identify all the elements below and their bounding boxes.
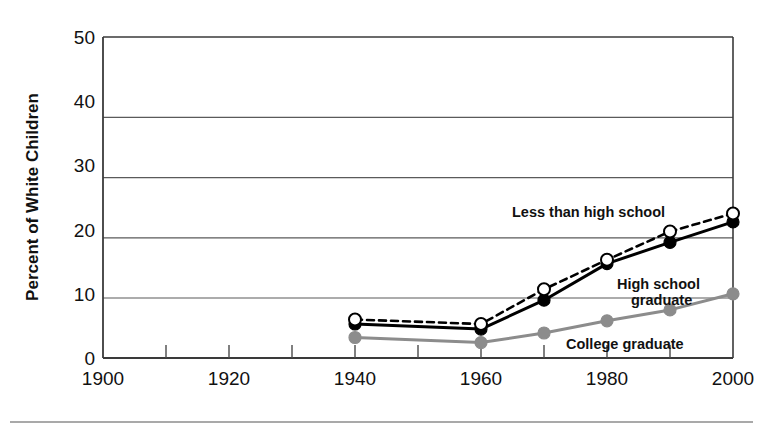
line-chart-svg: 01020304050 190019201940196019802000 Per… <box>0 0 763 434</box>
data-point-less-than-high-school-1980 <box>601 254 613 266</box>
data-point-college-graduate-1940 <box>349 332 361 344</box>
data-point-college-graduate-1960 <box>475 337 487 349</box>
data-point-less-than-high-school-1940 <box>349 314 361 326</box>
plot-background <box>103 37 733 358</box>
annotation-high-school-line2: graduate <box>631 292 692 308</box>
data-point-college-graduate-2000 <box>727 288 739 300</box>
data-point-less-than-high-school-2000 <box>727 208 739 220</box>
y-axis-tick-labels: 01020304050 <box>74 27 95 369</box>
x-tick-label-1920: 1920 <box>208 368 250 389</box>
y-tick-label-50: 50 <box>74 27 95 48</box>
y-axis-title: Percent of White Children <box>23 93 42 301</box>
y-tick-label-40: 40 <box>74 91 95 112</box>
y-tick-label-0: 0 <box>84 348 95 369</box>
x-tick-label-1980: 1980 <box>586 368 628 389</box>
chart-figure: 01020304050 190019201940196019802000 Per… <box>0 0 763 434</box>
annotation-less-than-high-school: Less than high school <box>512 204 665 220</box>
data-point-less-than-high-school-1970 <box>538 283 550 295</box>
y-tick-label-20: 20 <box>74 220 95 241</box>
y-tick-label-10: 10 <box>74 284 95 305</box>
data-point-college-graduate-1980 <box>601 315 613 327</box>
data-point-college-graduate-1970 <box>538 327 550 339</box>
data-point-less-than-high-school-1990 <box>664 226 676 238</box>
y-tick-label-30: 30 <box>74 155 95 176</box>
data-point-less-than-high-school-1960 <box>475 318 487 330</box>
x-tick-label-1960: 1960 <box>460 368 502 389</box>
x-tick-label-2000: 2000 <box>712 368 754 389</box>
annotation-college-graduate: College graduate <box>566 336 684 352</box>
x-tick-label-1940: 1940 <box>334 368 376 389</box>
x-axis-tick-labels: 190019201940196019802000 <box>82 368 754 389</box>
x-tick-label-1900: 1900 <box>82 368 124 389</box>
annotation-high-school-line1: High school <box>617 276 700 292</box>
